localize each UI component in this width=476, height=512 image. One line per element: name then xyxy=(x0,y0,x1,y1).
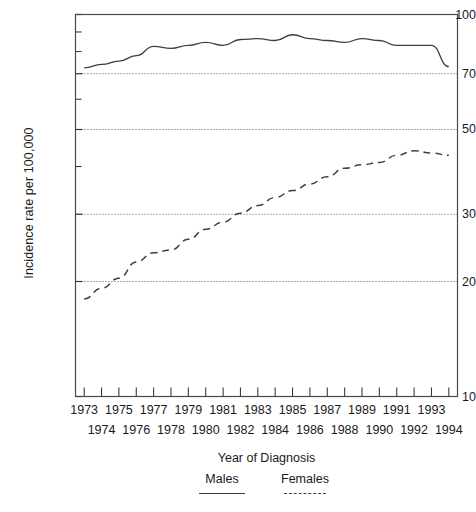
legend-label-females: Females xyxy=(265,472,345,486)
series-line-males xyxy=(84,35,449,68)
legend-label-males: Males xyxy=(182,472,262,486)
series-line-females xyxy=(84,151,449,299)
y-tick-label-20: 20 xyxy=(432,276,476,289)
x-axis-ticks-group xyxy=(84,388,449,397)
y-axis-ticks-group xyxy=(76,15,83,397)
chart-legend: Males Females xyxy=(0,472,476,512)
plot-frame xyxy=(76,15,458,397)
legend-item-males: Males xyxy=(182,472,262,494)
y-axis-title: Incidence rate per 100,000 xyxy=(22,3,44,403)
y-tick-label-70: 70 xyxy=(432,68,476,81)
gridlines-group xyxy=(76,74,458,282)
x-tick-label-1994: 1994 xyxy=(429,424,469,437)
x-axis-title: Year of Diagnosis xyxy=(75,451,458,465)
y-tick-label-30: 30 xyxy=(432,208,476,221)
y-tick-label-50: 50 xyxy=(432,123,476,136)
y-tick-label-100: 100 xyxy=(432,9,476,22)
x-tick-label-1993: 1993 xyxy=(411,404,451,417)
incidence-rate-line-chart: Incidence rate per 100,000 1020305070100… xyxy=(0,0,476,512)
legend-item-females: Females xyxy=(265,472,345,494)
y-tick-label-10: 10 xyxy=(432,391,476,404)
legend-swatch-males-solid-line xyxy=(199,493,245,494)
legend-swatch-females-dashed-line xyxy=(284,493,326,494)
data-series-group xyxy=(84,35,449,299)
